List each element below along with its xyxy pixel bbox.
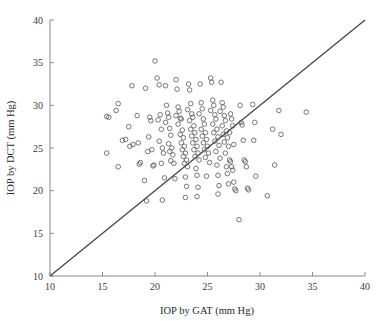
data-point-marker bbox=[201, 141, 206, 146]
data-point-marker bbox=[192, 147, 197, 152]
data-point-marker bbox=[197, 158, 202, 163]
data-point-marker bbox=[168, 159, 173, 164]
data-point-marker bbox=[136, 141, 141, 146]
data-point-marker bbox=[161, 151, 166, 156]
data-point-marker bbox=[222, 113, 227, 118]
data-point-marker bbox=[155, 76, 160, 81]
data-point-marker bbox=[229, 117, 234, 122]
data-point-marker bbox=[195, 194, 200, 199]
data-point-marker bbox=[209, 80, 214, 85]
data-point-marker bbox=[231, 142, 236, 147]
data-point-marker bbox=[200, 106, 205, 111]
data-point-marker bbox=[225, 135, 230, 140]
data-point-marker bbox=[238, 103, 243, 108]
y-tick-label: 30 bbox=[33, 100, 43, 111]
data-point-marker bbox=[130, 83, 135, 88]
data-point-marker bbox=[244, 164, 249, 169]
data-point-marker bbox=[166, 115, 171, 120]
data-point-marker bbox=[185, 164, 190, 169]
data-point-marker bbox=[150, 147, 155, 152]
data-point-marker bbox=[171, 153, 176, 158]
data-point-marker bbox=[163, 83, 168, 88]
x-axis-title: IOP by GAT (mm Hg) bbox=[160, 305, 254, 317]
data-point-marker bbox=[214, 117, 219, 122]
data-point-marker bbox=[212, 103, 217, 108]
y-tick-label: 15 bbox=[33, 228, 43, 239]
data-point-marker bbox=[180, 128, 185, 133]
data-point-marker bbox=[277, 108, 282, 113]
data-point-marker bbox=[191, 141, 196, 146]
data-point-marker bbox=[116, 164, 121, 169]
data-point-marker bbox=[228, 112, 233, 117]
data-point-marker bbox=[153, 59, 158, 64]
data-point-marker bbox=[135, 113, 140, 118]
data-point-marker bbox=[226, 182, 231, 187]
data-point-marker bbox=[195, 173, 200, 178]
data-point-marker bbox=[223, 151, 228, 156]
data-point-marker bbox=[222, 140, 227, 145]
y-tick-label: 35 bbox=[33, 57, 43, 68]
data-point-marker bbox=[207, 160, 212, 165]
data-point-marker bbox=[160, 198, 165, 203]
data-point-marker bbox=[215, 163, 220, 168]
data-point-marker bbox=[214, 149, 219, 154]
data-point-marker bbox=[237, 217, 242, 222]
data-point-marker bbox=[184, 158, 189, 163]
data-point-marker bbox=[187, 118, 192, 123]
y-axis-title: IOP by DCT (mm Hg) bbox=[5, 100, 17, 195]
data-point-marker bbox=[187, 88, 192, 93]
data-point-marker bbox=[183, 175, 188, 180]
data-point-marker bbox=[218, 156, 223, 161]
data-point-marker bbox=[194, 166, 199, 171]
x-tick-label: 25 bbox=[203, 281, 213, 292]
y-tick-label: 20 bbox=[33, 185, 43, 196]
data-point-marker bbox=[157, 139, 162, 144]
data-point-marker bbox=[183, 195, 188, 200]
data-point-marker bbox=[216, 192, 221, 197]
data-point-marker bbox=[206, 151, 211, 156]
plot-canvas: 10152025303540 10152025303540 IOP by GAT… bbox=[0, 0, 387, 321]
data-point-marker bbox=[213, 112, 218, 117]
data-point-marker bbox=[254, 174, 259, 179]
data-point-marker bbox=[221, 105, 226, 110]
data-point-marker bbox=[185, 107, 190, 112]
data-point-marker bbox=[162, 176, 167, 181]
data-point-marker bbox=[279, 132, 284, 137]
data-point-marker bbox=[223, 118, 228, 123]
data-point-marker bbox=[173, 176, 178, 181]
y-axis-ticks: 10152025303540 bbox=[33, 15, 54, 282]
data-point-marker bbox=[203, 155, 208, 160]
data-point-marker bbox=[218, 109, 223, 114]
data-point-marker bbox=[272, 163, 277, 168]
data-point-marker bbox=[188, 127, 193, 132]
data-point-marker bbox=[304, 110, 309, 115]
data-point-marker bbox=[217, 143, 222, 148]
data-point-marker bbox=[216, 135, 221, 140]
y-tick-label: 10 bbox=[33, 271, 43, 282]
data-point-marker bbox=[210, 98, 215, 103]
y-tick-label: 25 bbox=[33, 143, 43, 154]
data-point-marker bbox=[182, 144, 187, 149]
data-point-marker bbox=[160, 146, 165, 151]
data-point-marker bbox=[156, 118, 161, 123]
data-point-marker bbox=[200, 134, 205, 139]
data-point-marker bbox=[208, 76, 213, 81]
data-point-marker bbox=[174, 113, 179, 118]
data-point-marker bbox=[176, 122, 181, 127]
x-tick-label: 30 bbox=[255, 281, 265, 292]
data-point-marker bbox=[197, 112, 202, 117]
data-point-marker bbox=[196, 185, 201, 190]
y-tick-label: 40 bbox=[33, 15, 43, 26]
data-point-marker bbox=[175, 87, 180, 92]
data-point-marker bbox=[225, 171, 230, 176]
x-tick-label: 10 bbox=[45, 281, 55, 292]
data-point-marker bbox=[241, 138, 246, 143]
data-point-marker bbox=[208, 108, 213, 113]
data-point-marker bbox=[188, 101, 193, 106]
x-axis-ticks: 10152025303540 bbox=[45, 272, 370, 292]
data-point-marker bbox=[177, 109, 182, 114]
data-point-marker bbox=[174, 77, 179, 82]
data-point-marker bbox=[165, 111, 170, 116]
data-point-marker bbox=[220, 100, 225, 105]
data-point-marker bbox=[166, 141, 171, 146]
